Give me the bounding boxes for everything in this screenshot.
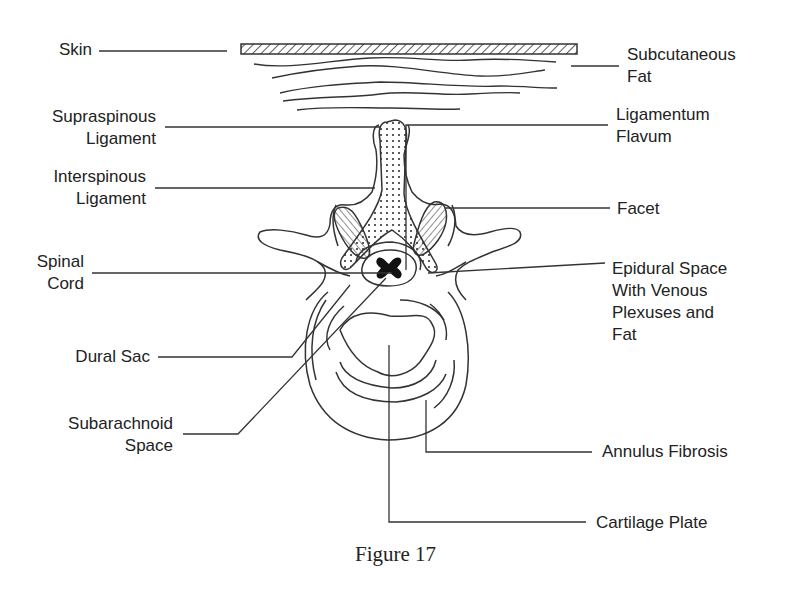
- label-skin: Skin: [20, 39, 92, 61]
- label-supraspinous-ligament: Supraspinous Ligament: [10, 106, 156, 150]
- spinal-cord: [376, 257, 401, 278]
- label-cartilage-plate: Cartilage Plate: [596, 512, 708, 534]
- label-dural-sac: Dural Sac: [10, 346, 150, 368]
- vertebral-body: [305, 292, 468, 440]
- facet-right: [413, 202, 446, 256]
- label-subcutaneous-fat: Subcutaneous Fat: [627, 44, 736, 88]
- subcutaneous-fat-lines: [254, 58, 557, 110]
- label-ligamentum-flavum: Ligamentum Flavum: [616, 104, 710, 148]
- label-facet: Facet: [617, 198, 660, 220]
- label-epidural-space: Epidural Space With Venous Plexuses and …: [612, 258, 727, 346]
- figure-caption: Figure 17: [0, 542, 791, 567]
- label-subarachnoid-space: Subarachnoid Space: [10, 413, 173, 457]
- facet-left: [334, 207, 369, 258]
- label-spinal-cord: Spinal Cord: [10, 251, 84, 295]
- label-annulus-fibrosis: Annulus Fibrosis: [602, 441, 728, 463]
- label-interspinous-ligament: Interspinous Ligament: [10, 166, 146, 210]
- skin-layer: [241, 44, 577, 54]
